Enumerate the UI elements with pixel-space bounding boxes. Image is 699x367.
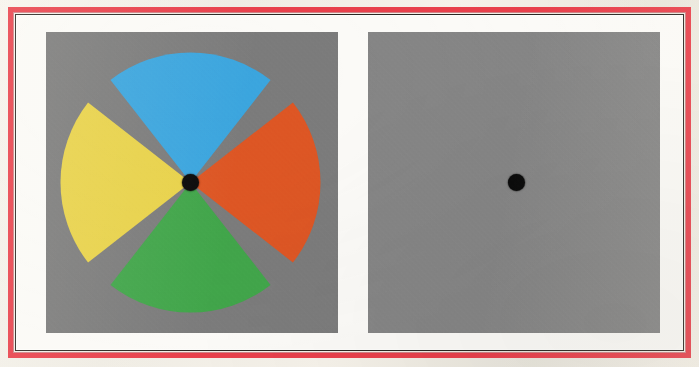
fixation-dot <box>182 174 199 191</box>
color-wheel-stimulus-panel <box>46 32 338 333</box>
blank-gray-stimulus-panel <box>368 32 660 333</box>
figure-root <box>0 0 699 367</box>
fixation-dot <box>508 174 525 191</box>
